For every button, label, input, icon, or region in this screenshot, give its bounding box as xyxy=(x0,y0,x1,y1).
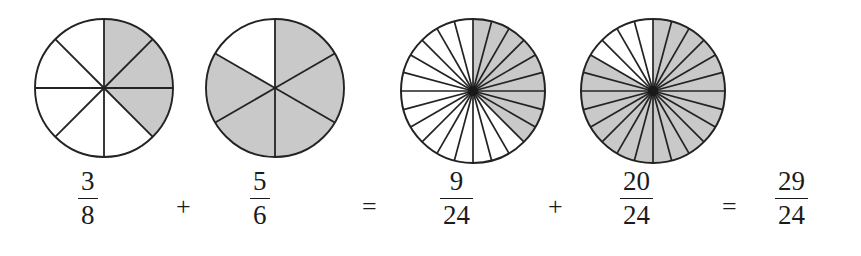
fraction-3-8-value: 38 xyxy=(78,168,98,230)
pie-sector-shaded xyxy=(104,88,173,137)
numerator: 29 xyxy=(775,168,808,197)
fraction-5-6-value: 56 xyxy=(250,168,270,230)
plus-sign-1: + xyxy=(176,168,191,220)
fraction-bar xyxy=(250,198,270,200)
circle-three-eighths-svg xyxy=(32,16,176,160)
fraction-20-24: 2024 xyxy=(620,168,653,230)
circle-nine-twentyfourths-svg xyxy=(398,16,548,166)
numerator: 3 xyxy=(78,168,98,197)
fraction-9-24: 924 xyxy=(440,168,473,230)
numerator: 9 xyxy=(440,168,473,197)
plus-sign-2-symbol: + xyxy=(548,168,563,220)
denominator: 8 xyxy=(78,201,98,230)
fraction-figure: 38+56=924+2024=2924 xyxy=(0,0,861,256)
fraction-29-24-value: 2924 xyxy=(775,168,808,230)
pie-chart-3-8 xyxy=(32,16,176,160)
fraction-3-8: 38 xyxy=(78,168,98,230)
circle-twenty-twentyfourths-svg xyxy=(578,16,728,166)
equals-sign-2-symbol: = xyxy=(722,168,737,220)
equals-sign-2: = xyxy=(722,168,737,220)
pie-divider xyxy=(55,88,104,137)
fraction-9-24-value: 924 xyxy=(440,168,473,230)
pie-chart-20-24 xyxy=(578,16,728,166)
equation-row: 38+56=924+2024=2924 xyxy=(0,168,861,248)
pie-chart-9-24 xyxy=(398,16,548,166)
denominator: 6 xyxy=(250,201,270,230)
plus-sign-2: + xyxy=(548,168,563,220)
denominator: 24 xyxy=(775,201,808,230)
pie-hub xyxy=(648,86,658,96)
pie-chart-5-6 xyxy=(203,16,347,160)
denominator: 24 xyxy=(440,201,473,230)
numerator: 20 xyxy=(620,168,653,197)
fraction-bar xyxy=(620,198,653,200)
fraction-29-24: 2924 xyxy=(775,168,808,230)
denominator: 24 xyxy=(620,201,653,230)
circle-five-sixths-svg xyxy=(203,16,347,160)
fraction-20-24-value: 2024 xyxy=(620,168,653,230)
plus-sign-1-symbol: + xyxy=(176,168,191,220)
fraction-5-6: 56 xyxy=(250,168,270,230)
fraction-bar xyxy=(440,198,473,200)
fraction-bar xyxy=(78,198,98,200)
equals-sign-1: = xyxy=(362,168,377,220)
fraction-bar xyxy=(775,198,808,200)
pie-hub xyxy=(468,86,478,96)
pie-divider xyxy=(55,39,104,88)
equals-sign-1-symbol: = xyxy=(362,168,377,220)
numerator: 5 xyxy=(250,168,270,197)
